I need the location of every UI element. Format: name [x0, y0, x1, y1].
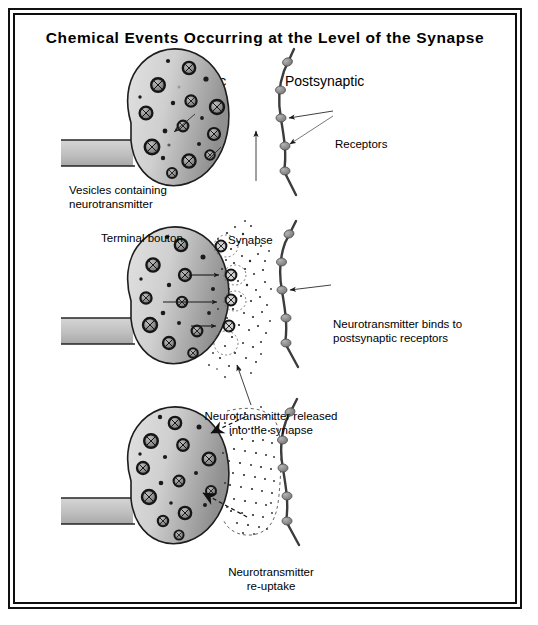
panel-2-drawing [61, 220, 331, 405]
axon-stalk-1 [61, 140, 133, 166]
label-neurotransmitter-released-into-the-synapse: Neurotransmitter released into the synap… [176, 410, 366, 437]
label-neurotransmitter-re-uptake: Neurotransmitter re-uptake [191, 566, 351, 593]
postsynaptic-membrane-2 [277, 221, 299, 367]
synapse-diagram-figure: Chemical Events Occurring at the Level o… [0, 0, 538, 625]
leader-released [237, 365, 251, 405]
figure-content: Chemical Events Occurring at the Level o… [13, 13, 517, 604]
leader-binds [290, 285, 331, 290]
panel-1-drawing [61, 49, 333, 195]
label-neurotransmitter-binds-to-postsynaptic-receptors: Neurotransmitter binds to postsynaptic r… [333, 318, 462, 345]
label-receptors: Receptors [335, 138, 387, 152]
postsynaptic-membrane-1 [276, 49, 297, 195]
leader-receptors-a [289, 111, 333, 118]
diagram-drawing-layer [13, 13, 517, 604]
label-synapse: Synapse [228, 234, 273, 248]
leader-receptors-b [290, 116, 333, 144]
label-vesicles-containing-neurotransmitter: Vesicles containing neurotransmitter [69, 184, 167, 211]
label-terminal-bouton: Terminal bouton [101, 232, 183, 246]
